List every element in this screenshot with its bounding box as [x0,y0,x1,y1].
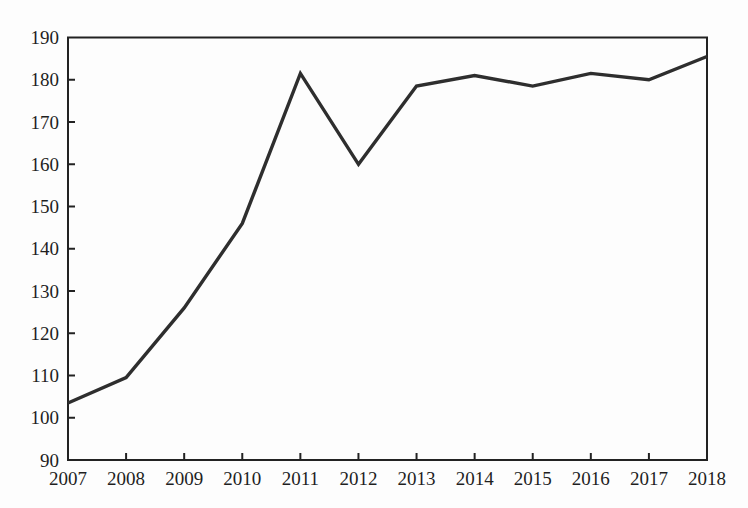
y-axis-tick-label: 100 [31,407,60,428]
x-axis-tick-label: 2011 [282,468,319,489]
plot-frame [68,38,707,461]
line-chart-figure: 9010011012013014015016017018019020072008… [0,0,748,508]
y-axis-tick-label: 160 [31,154,60,175]
x-axis-tick-label: 2007 [49,468,87,489]
x-axis-tick-label: 2010 [223,468,261,489]
x-axis-tick-label: 2012 [339,468,377,489]
x-axis-tick-label: 2015 [514,468,552,489]
y-axis-tick-label: 130 [31,281,60,302]
y-axis-tick-label: 180 [31,69,60,90]
x-axis-tick-label: 2017 [630,468,668,489]
x-axis-tick-label: 2008 [107,468,145,489]
x-axis-tick-label: 2014 [456,468,495,489]
data-line-series [68,57,707,404]
x-axis-tick-label: 2013 [398,468,436,489]
y-axis-tick-label: 140 [31,238,60,259]
line-chart: 9010011012013014015016017018019020072008… [0,0,748,508]
y-axis-tick-label: 120 [31,323,60,344]
y-axis-tick-label: 110 [31,365,59,386]
y-axis-tick-label: 150 [31,196,60,217]
x-axis-tick-label: 2016 [572,468,610,489]
x-axis-tick-label: 2009 [165,468,203,489]
y-axis-tick-label: 190 [31,27,60,48]
x-axis-tick-label: 2018 [688,468,726,489]
y-axis-tick-label: 170 [31,112,60,133]
